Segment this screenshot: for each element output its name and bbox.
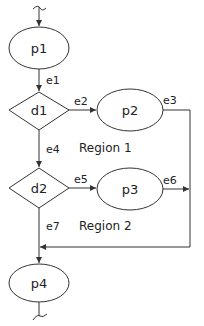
- node-p3: p3: [97, 168, 163, 210]
- edge-e6-label: e6: [163, 174, 177, 187]
- edge-e3-label: e3: [163, 94, 177, 107]
- edge-e4-label: e4: [46, 143, 60, 156]
- node-d2-label: d2: [31, 181, 48, 196]
- edge-e1-label: e1: [46, 74, 60, 87]
- node-p2-label: p2: [122, 103, 139, 118]
- control-flow-diagram: p1 e1 d1 e2 p2 e3 e4 Region 1 d2 e5 p3 e…: [0, 0, 204, 326]
- node-p2: p2: [97, 89, 163, 131]
- edge-e2-label: e2: [74, 95, 88, 108]
- region-2-label: Region 2: [79, 219, 132, 233]
- node-d2: d2: [9, 168, 69, 208]
- node-d1-label: d1: [31, 103, 48, 118]
- region-1-label: Region 1: [79, 141, 132, 155]
- node-p4-label: p4: [31, 276, 48, 291]
- exit-tilde: [33, 314, 47, 320]
- node-p1-label: p1: [31, 41, 48, 56]
- node-p1: p1: [9, 27, 69, 69]
- node-p3-label: p3: [122, 182, 139, 197]
- node-d1: d1: [9, 92, 69, 130]
- node-p4: p4: [9, 264, 69, 302]
- edge-e7-label: e7: [46, 220, 60, 233]
- edge-e5-label: e5: [74, 173, 88, 186]
